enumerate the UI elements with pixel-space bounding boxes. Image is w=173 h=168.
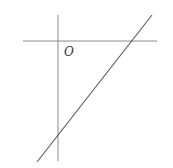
coordinate-diagram: O <box>0 0 173 168</box>
origin-label: O <box>64 45 74 59</box>
linear-function-line <box>37 15 152 162</box>
